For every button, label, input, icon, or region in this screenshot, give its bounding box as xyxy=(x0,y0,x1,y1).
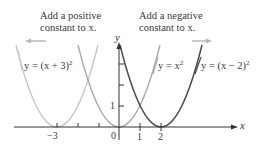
x-tick-label-0: 0 xyxy=(111,131,116,141)
y-axis-label: y xyxy=(115,32,120,43)
x-tick-label-1: 1 xyxy=(137,132,142,142)
curve-shifted-left xyxy=(16,45,98,127)
right-annotation-line2: constant to x. xyxy=(139,22,203,34)
left-annotation-line2: constant to x. xyxy=(40,22,101,34)
equation-shifted-right: y = (x − 2)2 xyxy=(201,61,250,72)
right-annotation: Add a negative constant to x. xyxy=(139,10,203,34)
x-tick-label-2: 2 xyxy=(158,132,163,142)
equation-base: y = x2 xyxy=(158,61,183,72)
y-ticks xyxy=(119,64,124,106)
left-annotation-line1: Add a positive xyxy=(40,10,101,22)
x-axis-label: x xyxy=(240,120,245,131)
right-annotation-line1: Add a negative xyxy=(139,10,203,22)
shift-right-arrow-icon xyxy=(192,39,212,44)
x-tick-label-neg3: −3 xyxy=(47,131,58,141)
equation-shifted-left: y = (x + 3)2 xyxy=(24,61,73,72)
shift-left-arrow-icon xyxy=(25,39,46,44)
left-eq-leader xyxy=(18,50,22,71)
left-annotation: Add a positive constant to x. xyxy=(40,10,101,34)
curve-shifted-right xyxy=(120,45,202,127)
x-axis-arrow-icon xyxy=(231,125,238,130)
y-tick-label-1: 1 xyxy=(110,101,115,111)
